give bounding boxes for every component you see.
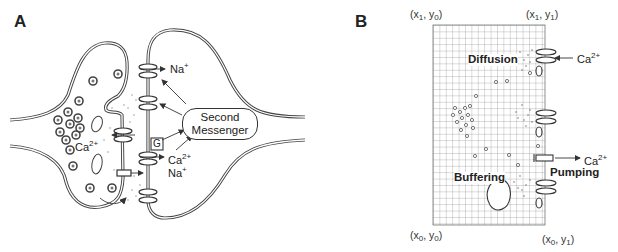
second-messenger-line1: Second [189,111,251,124]
na-ion-label-top: Na+ [170,62,189,75]
panel-b-compartment-grid-diagram: B [310,0,618,252]
na-ion-label-bottom: Na+ [168,166,187,179]
ca-influx-label: Ca2+ [577,52,600,65]
pumping-label: Pumping [550,167,599,179]
flux-arrows [555,58,580,158]
presynaptic-membrane [10,43,127,208]
ca-efflux-label: Ca2+ [584,154,607,167]
corner-label-top-right: (x1, y1) [526,9,558,22]
calcium-channels [536,49,556,208]
synapse-illustration [0,0,310,252]
corner-label-bottom-left: (x0, y0) [410,230,442,243]
second-messenger-line2: Messenger [189,124,251,137]
panel-a-synapse-diagram: A [0,0,310,252]
ca-ion-label-postsynaptic: Ca2+ [168,153,191,166]
diffusion-label: Diffusion [468,54,518,66]
calcium-pump [534,154,553,162]
ca-ion-label-presynaptic: Ca2+ [75,140,98,153]
buffer-organelle [487,180,510,210]
corner-label-bottom-right: (x0, y1) [542,234,574,247]
g-protein-label: G [153,139,161,149]
buffering-label: Buffering [454,172,505,184]
corner-label-top-left: (x1, y0) [410,9,442,22]
grid-model-illustration [310,0,618,252]
second-messenger-box: Second Messenger [182,108,258,140]
receptor-channels [114,64,157,203]
